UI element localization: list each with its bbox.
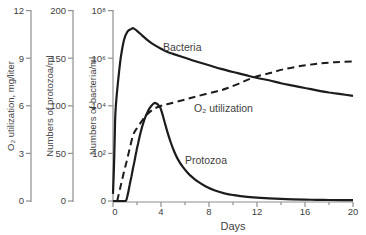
annotation-protozoa: Protozoa [185,154,227,166]
o2-axis-title: O₂ utilization, mg/liter [5,61,16,151]
protozoa-axis-title: Numbers of protozoa/ml [44,55,55,156]
o2-tick-label: 3 [19,148,24,159]
annotation-o-utilization: O₂ utilization [194,102,253,114]
protozoa-tick-label: 0 [61,195,66,206]
o2-tick-label: 9 [19,53,24,64]
bacteria-axis-title: Numbers of bacteria/ml [87,57,98,155]
bacteria-tick-label: 0 [101,195,106,206]
x-tick-label: 20 [348,206,359,217]
bacteria-tick-label: 10⁸ [91,5,106,16]
x-tick-label: 4 [158,206,163,217]
protozoa-tick-label: 50 [55,148,66,159]
x-tick-label: 8 [206,206,211,217]
x-tick-label: 0 [112,206,117,217]
x-tick-label: 12 [252,206,263,217]
o2-tick-label: 12 [13,5,24,16]
chart-svg: 036912O₂ utilization, mg/liter0501001502… [0,0,366,235]
series-o-utilization [117,61,353,201]
annotation-bacteria: Bacteria [163,41,202,53]
x-tick-label: 16 [300,206,311,217]
protozoa-tick-label: 200 [50,5,66,16]
bacteria-protozoa-growth-figure: 036912O₂ utilization, mg/liter0501001502… [0,0,366,235]
o2-tick-label: 0 [19,195,24,206]
x-axis-title: Days [220,220,246,232]
series-protozoa [113,103,353,201]
o2-tick-label: 6 [19,100,24,111]
